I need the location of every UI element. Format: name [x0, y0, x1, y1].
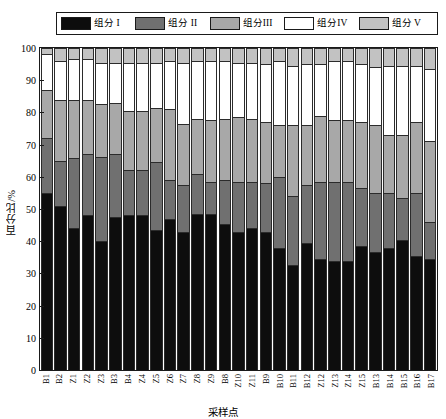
bar-segment[interactable]: [95, 63, 108, 105]
bar-segment[interactable]: [246, 48, 259, 62]
bar-segment[interactable]: [109, 154, 122, 217]
bar-segment[interactable]: [54, 161, 67, 206]
bar-column[interactable]: [423, 48, 437, 370]
bar-segment[interactable]: [205, 214, 218, 370]
bar-segment[interactable]: [355, 64, 368, 122]
bar-segment[interactable]: [54, 206, 67, 370]
bar-segment[interactable]: [355, 48, 368, 64]
bar-segment[interactable]: [123, 111, 136, 171]
bar-segment[interactable]: [123, 63, 136, 111]
bar-segment[interactable]: [355, 122, 368, 188]
bar-segment[interactable]: [82, 59, 95, 99]
bar-segment[interactable]: [314, 182, 327, 259]
bar-segment[interactable]: [260, 48, 273, 64]
legend-item-1[interactable]: 组分 I: [61, 17, 135, 30]
bar-segment[interactable]: [260, 183, 273, 231]
bar-segment[interactable]: [342, 48, 355, 61]
bar-segment[interactable]: [54, 48, 67, 61]
bar-segment[interactable]: [68, 48, 81, 59]
bar-segment[interactable]: [54, 61, 67, 100]
bar-segment[interactable]: [355, 246, 368, 370]
bar-column[interactable]: [67, 48, 81, 370]
bar-segment[interactable]: [232, 117, 245, 181]
bar-segment[interactable]: [205, 120, 218, 181]
bar-segment[interactable]: [109, 103, 122, 155]
bar-segment[interactable]: [260, 232, 273, 370]
bar-segment[interactable]: [177, 232, 190, 370]
bar-segment[interactable]: [150, 63, 163, 108]
bar-segment[interactable]: [164, 219, 177, 370]
bar-column[interactable]: [382, 48, 396, 370]
bar-segment[interactable]: [301, 48, 314, 64]
legend-item-5[interactable]: 组分 V: [359, 17, 433, 30]
bar-segment[interactable]: [246, 63, 259, 119]
bar-segment[interactable]: [82, 48, 95, 59]
bar-segment[interactable]: [410, 48, 423, 66]
bar-segment[interactable]: [287, 265, 300, 370]
bar-column[interactable]: [108, 48, 122, 370]
bar-segment[interactable]: [355, 188, 368, 246]
bar-segment[interactable]: [82, 215, 95, 370]
bar-segment[interactable]: [232, 232, 245, 370]
bar-column[interactable]: [259, 48, 273, 370]
bar-segment[interactable]: [136, 170, 149, 215]
bar-column[interactable]: [300, 48, 314, 370]
bar-column[interactable]: [410, 48, 424, 370]
bar-segment[interactable]: [246, 228, 259, 370]
bar-segment[interactable]: [191, 48, 204, 61]
bar-segment[interactable]: [123, 170, 136, 215]
bar-segment[interactable]: [150, 230, 163, 370]
bar-segment[interactable]: [424, 141, 437, 222]
bar-segment[interactable]: [328, 61, 341, 121]
bar-segment[interactable]: [41, 193, 54, 370]
bar-segment[interactable]: [273, 177, 286, 248]
bar-column[interactable]: [54, 48, 68, 370]
bar-segment[interactable]: [177, 48, 190, 62]
bar-segment[interactable]: [177, 185, 190, 232]
bar-segment[interactable]: [301, 185, 314, 243]
bar-segment[interactable]: [342, 61, 355, 121]
bar-column[interactable]: [314, 48, 328, 370]
bar-segment[interactable]: [383, 135, 396, 193]
bar-segment[interactable]: [396, 240, 409, 370]
bar-segment[interactable]: [273, 61, 286, 125]
bar-segment[interactable]: [328, 48, 341, 61]
bar-segment[interactable]: [328, 261, 341, 370]
bar-segment[interactable]: [287, 125, 300, 196]
bar-segment[interactable]: [396, 198, 409, 240]
bar-segment[interactable]: [136, 63, 149, 111]
bar-segment[interactable]: [314, 64, 327, 116]
bar-segment[interactable]: [68, 158, 81, 229]
legend-item-4[interactable]: 组分IV: [284, 17, 358, 30]
bar-segment[interactable]: [219, 224, 232, 371]
bar-segment[interactable]: [54, 100, 67, 161]
bar-segment[interactable]: [328, 182, 341, 261]
bar-segment[interactable]: [369, 193, 382, 253]
bar-segment[interactable]: [410, 256, 423, 370]
bar-segment[interactable]: [424, 69, 437, 141]
legend-item-2[interactable]: 组分 II: [135, 17, 209, 30]
bar-segment[interactable]: [328, 120, 341, 181]
bar-column[interactable]: [191, 48, 205, 370]
bar-segment[interactable]: [219, 119, 232, 180]
bar-column[interactable]: [245, 48, 259, 370]
bar-segment[interactable]: [260, 64, 273, 122]
bar-column[interactable]: [286, 48, 300, 370]
bar-segment[interactable]: [396, 66, 409, 135]
bar-segment[interactable]: [150, 108, 163, 163]
bar-segment[interactable]: [369, 125, 382, 193]
bar-segment[interactable]: [150, 48, 163, 62]
bar-segment[interactable]: [82, 154, 95, 215]
bar-segment[interactable]: [164, 48, 177, 61]
bar-segment[interactable]: [82, 100, 95, 155]
bar-segment[interactable]: [164, 109, 177, 180]
bar-segment[interactable]: [314, 48, 327, 64]
bar-segment[interactable]: [136, 48, 149, 62]
bar-segment[interactable]: [314, 116, 327, 182]
bar-segment[interactable]: [246, 119, 259, 182]
bar-segment[interactable]: [164, 180, 177, 219]
bar-segment[interactable]: [164, 61, 177, 109]
bar-column[interactable]: [369, 48, 383, 370]
bar-segment[interactable]: [260, 122, 273, 183]
bar-segment[interactable]: [177, 63, 190, 124]
